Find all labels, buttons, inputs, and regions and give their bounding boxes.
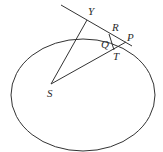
label-R: R xyxy=(111,21,119,33)
label-P: P xyxy=(126,31,134,43)
label-S: S xyxy=(47,87,53,99)
label-Q: Q xyxy=(101,38,109,50)
ellipse-orbit xyxy=(11,39,155,151)
line-RT xyxy=(109,34,114,50)
label-T: T xyxy=(113,50,120,62)
label-Y: Y xyxy=(88,5,96,17)
orbit-diagram: Y R P Q T S xyxy=(0,0,163,152)
